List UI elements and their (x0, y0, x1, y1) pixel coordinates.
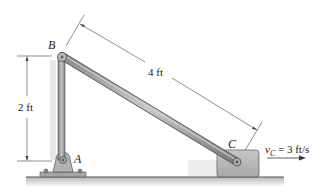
dimension-4ft: 4 ft (66, 15, 262, 152)
pin-c (233, 158, 241, 166)
arrowhead-icon (26, 56, 29, 61)
velocity-annotation: vC = 3 ft/s (265, 143, 309, 161)
point-b-label: B (48, 38, 56, 52)
arrow-right-icon (299, 156, 306, 161)
arrowhead-icon (252, 127, 257, 131)
point-a-label: A (73, 152, 82, 166)
dimension-4ft-label: 4 ft (148, 66, 163, 78)
arrowhead-icon (80, 24, 85, 28)
point-c-label: C (228, 137, 237, 151)
ground-right (164, 177, 284, 187)
bolt-icon (44, 169, 48, 173)
rod-ab (58, 56, 65, 160)
pin-b (58, 53, 67, 62)
arrowhead-icon (26, 156, 29, 161)
linkage-diagram: 2 ft 4 ft (0, 0, 328, 195)
bolt-icon (78, 169, 82, 173)
velocity-value: = 3 ft/s (275, 143, 309, 155)
ground-left (26, 177, 164, 187)
pin-a (60, 157, 67, 164)
dimension-2ft-label: 2 ft (18, 101, 33, 113)
dimension-2ft: 2 ft (17, 56, 52, 161)
velocity-label: vC = 3 ft/s (265, 143, 309, 158)
